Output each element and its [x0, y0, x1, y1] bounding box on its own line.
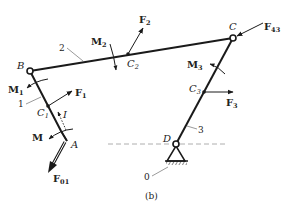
figure-caption: (b) — [145, 191, 158, 201]
label-link-2: 2 — [59, 43, 65, 53]
label-link-1: 1 — [18, 99, 24, 109]
label-C: C — [229, 21, 237, 32]
leader-link-2 — [67, 48, 83, 61]
label-M2: M2 — [91, 36, 107, 49]
label-M3: M3 — [187, 59, 203, 72]
leader-link-1 — [26, 97, 41, 104]
label-C2: C2 — [127, 58, 139, 71]
label-F3: F3 — [226, 97, 238, 110]
joint-B — [27, 68, 33, 74]
label-B: B — [16, 60, 24, 71]
label-I: I — [62, 109, 68, 120]
force-F01-arrow — [48, 142, 65, 173]
force-F43-arrow — [237, 23, 263, 36]
label-F2: F2 — [139, 14, 151, 27]
label-link-0: 0 — [144, 172, 150, 182]
label-A: A — [70, 139, 78, 150]
label-C3: C3 — [189, 83, 201, 96]
joint-D — [173, 141, 179, 147]
label-F43: F43 — [264, 21, 281, 34]
ground-support — [165, 146, 188, 165]
label-link-3: 3 — [198, 125, 204, 135]
leader-link-0 — [152, 167, 168, 176]
leader-link-3 — [187, 126, 197, 129]
label-F01: F01 — [53, 173, 69, 186]
label-C1: C1 — [37, 107, 49, 120]
link-1-to-A — [61, 131, 67, 141]
force-F2-arrow — [128, 28, 143, 54]
label-M: M — [32, 132, 43, 143]
label-F1: F1 — [75, 87, 87, 100]
force-F1-arrow — [48, 91, 72, 106]
mechanism-diagram: B C D A 2 1 3 0 C1 C2 C3 F1 F2 F3 F43 F0… — [0, 0, 285, 208]
label-M1: M1 — [8, 84, 24, 97]
label-D: D — [162, 133, 171, 144]
joint-C — [230, 35, 236, 41]
